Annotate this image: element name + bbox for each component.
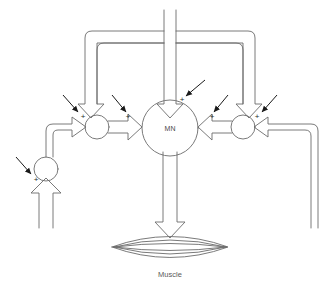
pathway-left-return-loop	[46, 117, 86, 157]
node-label-mn: MN	[165, 125, 176, 132]
pathway-right-return-loop	[254, 117, 318, 228]
mod-arrow-left-inter-icon	[63, 95, 78, 112]
sign-mn-top: +	[180, 95, 185, 104]
muscle-label: Muscle	[158, 270, 182, 279]
figure-canvas: + + + + + + MN Muscle	[0, 0, 332, 288]
mod-arrow-mn-icon	[186, 80, 205, 96]
sign-lower-left: +	[34, 175, 39, 184]
node-left-interneuron[interactable]	[85, 115, 109, 139]
modulatory-arrow-group	[16, 80, 277, 174]
mod-arrow-right-inter-icon	[262, 95, 277, 112]
neural-circuit-diagram: + + + + + + MN Muscle	[0, 0, 332, 288]
sign-left-inter: +	[81, 112, 86, 121]
pathway-ascending-input	[31, 178, 61, 228]
sign-mn-left: +	[126, 112, 131, 121]
pathway-right-interneuron-to-mn	[198, 114, 232, 140]
sign-mn-right: +	[210, 112, 215, 121]
muscle-shape[interactable]	[112, 237, 228, 258]
node-right-interneuron[interactable]	[231, 115, 255, 139]
mod-arrow-mn-left-icon	[112, 95, 126, 112]
mod-arrow-mn-right-icon	[214, 95, 228, 112]
bus-outer-loop	[78, 31, 262, 118]
mod-arrow-lower-left-icon	[16, 157, 31, 174]
pathway-mn-to-muscle	[155, 152, 185, 238]
bus-inner-loop	[97, 43, 243, 104]
sign-right-inter: +	[255, 112, 260, 121]
